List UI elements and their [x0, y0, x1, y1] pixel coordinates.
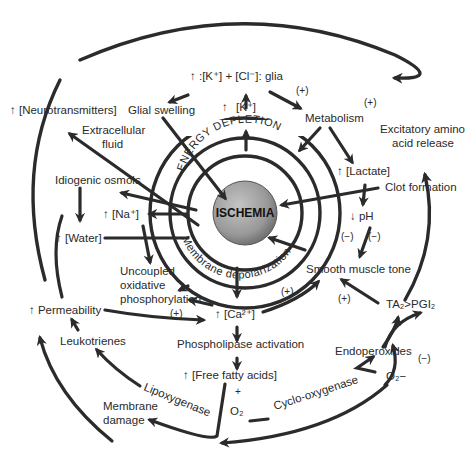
uncoupled-label-2: oxidative [120, 279, 165, 291]
ta2-pgi2-label: TA₂>PGI₂ [386, 298, 435, 310]
endoperoxides-label: Endoperoxides [335, 345, 412, 357]
clot-formation-label: Clot formation [385, 181, 457, 193]
membrane-damage-label: Membrane [103, 400, 158, 412]
extracellular-fluid-label: Extracellular [82, 124, 145, 136]
metabolism-label: Metabolism [305, 112, 364, 124]
lactate-label: ↑ [Lactate] [337, 165, 390, 177]
extracellular-fluid-label-2: fluid [102, 138, 123, 150]
modifier-minus-ph-1: (−) [341, 231, 354, 242]
ischemia-cascade-diagram: ISCHEMIA ENERGY DEPLETION Membrane depol… [0, 0, 466, 457]
leukotrienes-label: Leukotrienes [60, 335, 126, 347]
permeability-label: ↑ Permeability [29, 304, 101, 316]
outer-right-arc [405, 175, 430, 300]
k-plus-label: [K⁺] [236, 101, 256, 113]
excitatory-amino-acid-label-2: acid release [392, 137, 454, 149]
modifier-plus-perm-ca: (+) [170, 308, 183, 319]
neurotransmitters-label: ↑ [Neurotransmitters] [10, 104, 117, 116]
center-label: ISCHEMIA [216, 206, 275, 220]
cyclooxygenase-label: Cyclo-oxygenase [272, 373, 360, 412]
o2-label: O₂ [230, 405, 243, 417]
uncoupled-label-3: phosphorylation [120, 293, 201, 305]
water-label: ↑ [Water] [56, 232, 102, 244]
free-fatty-acids-label: ↑ [Free fatty acids] [183, 369, 277, 381]
plus-sign: + [235, 386, 241, 397]
na-plus-label: ↑ [Na⁺] [103, 208, 139, 220]
k-plus-up-icon: ↑ [222, 101, 228, 113]
idiogenic-osmols-label: Idiogenic osmols [55, 174, 141, 186]
smooth-muscle-tone-label: Smooth muscle tone [306, 263, 411, 275]
modifier-minus-o2: (−) [418, 353, 431, 364]
modifier-minus-ph-2: (−) [368, 231, 381, 242]
membrane-damage-label-2: damage [103, 414, 145, 426]
modifier-plus-excitatory: (+) [364, 97, 377, 108]
modifier-plus-metabolism: (+) [296, 85, 309, 96]
ca-plus-label: ↑ [Ca²⁺] [215, 308, 255, 320]
modifier-plus-ca-smooth: (+) [281, 286, 294, 297]
ph-label: ↓ pH [350, 210, 374, 222]
uncoupled-label: Uncoupled [120, 265, 175, 277]
k-cl-glia-label: ↑ :[K⁺] + [Cl⁻]: glia [190, 70, 283, 82]
excitatory-amino-acid-label: Excitatory amino [380, 123, 465, 135]
o2-minus-label: O₂− [386, 370, 406, 382]
glial-swelling-label: Glial swelling [128, 104, 195, 116]
modifier-plus-ta2-smooth: (+) [338, 293, 351, 304]
phospholipase-activation-label: Phospholipase activation [177, 338, 304, 350]
